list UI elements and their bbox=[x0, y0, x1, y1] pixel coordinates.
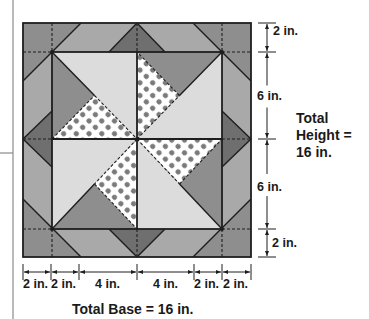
junction-dot bbox=[220, 50, 224, 54]
height-label-bottom-border: 2 in. bbox=[272, 237, 297, 250]
base-label-left-inner: 2 in. bbox=[51, 278, 76, 291]
base-label-right-border: 2 in. bbox=[223, 278, 248, 291]
junction-dot bbox=[50, 50, 54, 54]
quilt-block bbox=[23, 23, 251, 257]
junction-dot bbox=[220, 227, 224, 231]
junction-dot bbox=[135, 137, 139, 141]
height-label-top-border: 2 in. bbox=[273, 25, 298, 38]
total-height-line-3: 16 in. bbox=[296, 144, 352, 161]
total-height-line-1: Total bbox=[296, 110, 352, 127]
total-height-line-2: Height = bbox=[296, 127, 352, 144]
height-label-upper-half: 6 in. bbox=[257, 90, 282, 103]
junction-dot bbox=[50, 227, 54, 231]
base-label-left-border: 2 in. bbox=[23, 278, 48, 291]
height-label-lower-half: 6 in. bbox=[257, 181, 282, 194]
base-label-right-half: 4 in. bbox=[153, 278, 178, 291]
total-base-label: Total Base = 16 in. bbox=[72, 301, 194, 318]
quilt-dimension-diagram: 2 in. 6 in. 6 in. 2 in. Total Height = 1… bbox=[0, 0, 369, 319]
base-label-left-half: 4 in. bbox=[95, 278, 120, 291]
total-height-label: Total Height = 16 in. bbox=[296, 110, 352, 161]
base-label-right-inner: 2 in. bbox=[194, 278, 219, 291]
